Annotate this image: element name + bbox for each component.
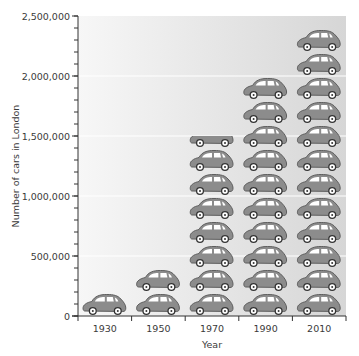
x-tick-label: 2010	[307, 323, 331, 334]
x-axis-title: Year	[201, 339, 222, 350]
y-tick-label: 1,500,000	[22, 131, 70, 142]
y-tick-label: 500,000	[31, 251, 70, 262]
x-tick-label: 1950	[146, 323, 170, 334]
y-tick-label: 2,000,000	[22, 71, 70, 82]
pictogram-chart: 0500,0001,000,0001,500,0002,000,0002,500…	[0, 0, 359, 356]
y-tick-label: 0	[64, 311, 70, 322]
y-axis-ticks: 0500,0001,000,0001,500,0002,000,0002,500…	[22, 11, 78, 322]
x-tick-label: 1990	[254, 323, 278, 334]
y-tick-label: 2,500,000	[22, 11, 70, 22]
x-tick-label: 1970	[200, 323, 224, 334]
y-tick-label: 1,000,000	[22, 191, 70, 202]
y-axis-title: Number of cars in London	[10, 105, 21, 228]
x-axis-ticks: 19301950197019902010	[78, 316, 346, 334]
x-tick-label: 1930	[93, 323, 117, 334]
